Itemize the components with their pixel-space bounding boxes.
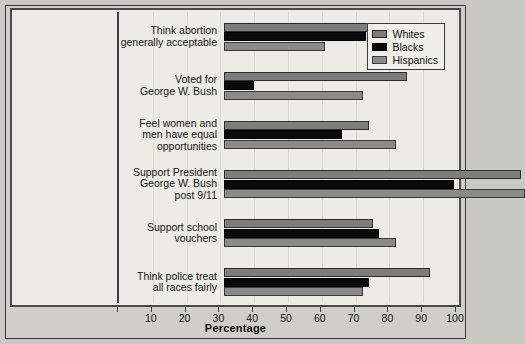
legend-label: Whites <box>392 28 424 40</box>
y-axis-line <box>117 12 119 303</box>
bar-hispanics <box>224 91 363 100</box>
bar-whites <box>224 170 521 179</box>
bar-whites <box>224 23 369 32</box>
plot-frame: Think abortiongenerally acceptableVoted … <box>10 8 461 307</box>
bar-hispanics <box>224 238 396 247</box>
legend-item-whites: Whites <box>372 27 438 40</box>
legend-label: Blacks <box>392 41 423 53</box>
legend-swatch-hispanics <box>372 56 387 64</box>
bar-group <box>117 160 457 209</box>
bar-group <box>117 258 457 307</box>
bar-blacks <box>224 278 369 287</box>
bar-blacks <box>224 229 379 238</box>
legend: WhitesBlacksHispanics <box>367 23 445 70</box>
legend-item-hispanics: Hispanics <box>372 53 438 66</box>
bar-blacks <box>224 81 254 90</box>
bars <box>224 110 457 159</box>
bar-blacks <box>224 180 454 189</box>
bar-hispanics <box>224 42 325 51</box>
bar-blacks <box>224 32 366 41</box>
bar-group <box>117 209 457 258</box>
x-axis: 102030405060708090100 <box>10 307 461 319</box>
bar-whites <box>224 121 369 130</box>
bar-hispanics <box>224 189 525 198</box>
bar-hispanics <box>224 140 396 149</box>
bars <box>224 209 457 258</box>
bar-whites <box>224 268 430 277</box>
legend-item-blacks: Blacks <box>372 40 438 53</box>
bar-hispanics <box>224 287 363 296</box>
gridline-100 <box>457 12 458 303</box>
legend-swatch-blacks <box>372 43 387 51</box>
bar-whites <box>224 72 407 81</box>
bar-blacks <box>224 130 342 139</box>
legend-swatch-whites <box>372 30 387 38</box>
x-tick-0 <box>117 307 118 312</box>
legend-label: Hispanics <box>392 54 438 66</box>
bar-whites <box>224 219 373 228</box>
x-axis-label: Percentage <box>0 322 471 334</box>
bar-group <box>117 110 457 159</box>
bars <box>224 258 457 307</box>
bars <box>224 160 457 209</box>
